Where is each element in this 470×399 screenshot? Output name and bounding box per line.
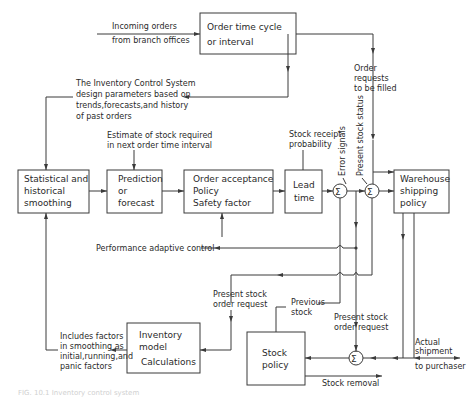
label-text: design parameters based on xyxy=(76,90,191,99)
box-label: model xyxy=(139,342,167,352)
box-label: Warehouse xyxy=(400,174,450,184)
label-stock-receipt: Stock receipt probability xyxy=(289,130,341,149)
box-label: smoothing xyxy=(24,198,72,208)
box-label: Lead xyxy=(293,180,315,190)
label-text: to be filled xyxy=(354,84,397,93)
label-text: order request xyxy=(213,300,267,309)
summing-junction-3: Σ xyxy=(349,351,363,365)
label-text: probability xyxy=(289,140,332,149)
label-actual-shipment: Actual shipment to purchaser xyxy=(415,338,466,371)
label-estimate: Estimate of stock required in next order… xyxy=(107,131,212,150)
label-stock-removal: Stock removal xyxy=(322,379,379,388)
box-label: Order time cycle xyxy=(207,22,282,32)
label-text: stock xyxy=(291,308,313,317)
sigma-icon: Σ xyxy=(335,187,341,197)
label-text: trends,forecasts,and history xyxy=(76,101,188,110)
label-text: panic factors xyxy=(60,362,112,371)
box-label: historical xyxy=(24,186,65,196)
box-label: Order acceptance xyxy=(193,174,274,184)
label-order-requests: Order requests to be filled xyxy=(354,64,397,93)
label-text: Order xyxy=(354,64,377,73)
label-performance-adaptive-control: Performance adaptive control xyxy=(96,244,215,253)
box-label: Inventory xyxy=(139,330,183,340)
inventory-control-diagram: Order time cycle or interval Statistical… xyxy=(0,0,470,399)
box-lead-time: Lead time xyxy=(285,170,322,213)
label-present-stock-order-left: Present stock order request xyxy=(213,290,267,309)
summing-junction-1: Σ xyxy=(333,184,347,198)
label-text: Present stock xyxy=(334,313,388,322)
label-text: in smoothing as xyxy=(60,342,124,351)
label-text: Estimate of stock required xyxy=(107,131,212,140)
sigma-icon: Σ xyxy=(351,354,357,364)
label-text: Stock receipt xyxy=(289,130,341,139)
box-label: Stock xyxy=(262,348,288,358)
label-text: Present stock xyxy=(213,290,267,299)
summing-junction-2: Σ xyxy=(365,184,379,198)
box-stock-policy: Stock policy xyxy=(247,332,305,385)
sigma-icon: Σ xyxy=(367,187,373,197)
label-text: from branch offices xyxy=(112,36,190,45)
label-present-stock-status: Present stock status xyxy=(356,95,365,176)
box-statistical-smoothing: Statistical and historical smoothing xyxy=(18,170,89,213)
label-text: initial,running,and xyxy=(60,352,133,361)
box-label: or interval xyxy=(207,37,253,47)
figure-caption: FIG. 10.1 Inventory control system xyxy=(18,389,139,397)
label-error-signals: Error signals xyxy=(338,126,347,176)
box-label: Calculations xyxy=(141,357,196,367)
box-inventory-model: Inventory model Calculations xyxy=(127,323,200,373)
box-label: or xyxy=(118,186,128,196)
box-label: time xyxy=(294,193,315,203)
label-text: order request xyxy=(334,323,388,332)
box-label: Prediction xyxy=(118,174,163,184)
label-text: Previous xyxy=(291,298,325,307)
box-label: forecast xyxy=(118,198,155,208)
box-label: shipping xyxy=(400,186,438,196)
label-includes-factors: Includes factors in smoothing as initial… xyxy=(60,332,133,371)
box-label: policy xyxy=(262,360,289,370)
label-text: shipment xyxy=(415,347,452,356)
box-label: Statistical and xyxy=(24,174,88,184)
label-text: The Inventory Control System xyxy=(75,79,196,88)
box-order-time-cycle: Order time cycle or interval xyxy=(200,13,296,54)
label-previous-stock: Previous stock xyxy=(291,298,325,317)
box-label: policy xyxy=(400,198,427,208)
label-present-stock-order-right: Present stock order request xyxy=(334,313,388,332)
label-text: requests xyxy=(354,74,389,83)
label-text: Includes factors xyxy=(60,332,123,341)
label-text: in next order time interval xyxy=(107,141,212,150)
label-text: Actual xyxy=(415,338,440,347)
box-label: Policy xyxy=(193,186,220,196)
box-warehouse-shipping: Warehouse shipping policy xyxy=(394,170,450,213)
box-order-acceptance: Order acceptance Policy Safety factor xyxy=(184,170,274,213)
label-text: Incoming orders xyxy=(112,22,177,31)
box-prediction: Prediction or forecast xyxy=(107,170,163,213)
label-text: of past orders xyxy=(76,112,132,121)
label-text: to purchaser xyxy=(415,362,466,371)
box-label: Safety factor xyxy=(193,198,251,208)
label-ics-design: The Inventory Control System design para… xyxy=(75,79,196,121)
